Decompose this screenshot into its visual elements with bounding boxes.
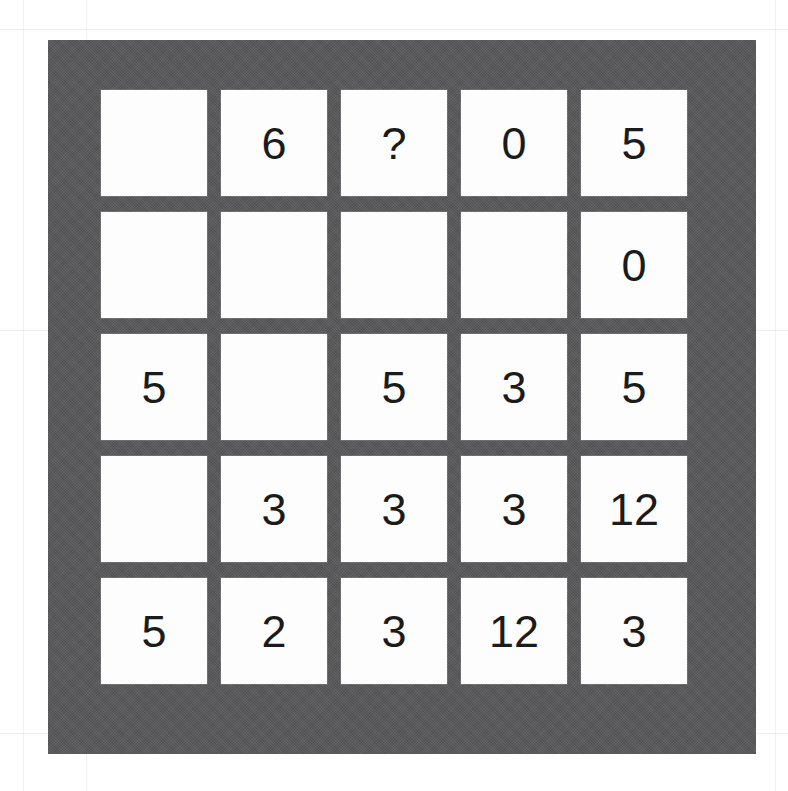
grid-cell-value: 3 — [381, 609, 406, 654]
grid-cell-value: ? — [381, 121, 406, 166]
grid-cell-r2c5[interactable]: 0 — [581, 212, 687, 318]
grid-cell-value: 3 — [501, 487, 526, 532]
grid-cell-r5c3[interactable]: 3 — [341, 578, 447, 684]
grid-cell-value: 5 — [141, 365, 166, 410]
grid-cell-r5c2[interactable]: 2 — [221, 578, 327, 684]
grid-cell-r4c3[interactable]: 3 — [341, 456, 447, 562]
paper-grid-line-vertical — [775, 0, 776, 791]
grid-cell-value: 3 — [381, 487, 406, 532]
grid-cell-value: 5 — [141, 609, 166, 654]
grid-cell-r2c4[interactable] — [461, 212, 567, 318]
grid-cell-value: 3 — [621, 609, 646, 654]
paper-grid-line-vertical — [23, 0, 24, 791]
number-grid-board: 6 ? 0 5 0 5 5 3 5 3 3 3 12 5 2 3 12 3 — [48, 40, 756, 754]
grid-cell-r3c2[interactable] — [221, 334, 327, 440]
paper-grid-line-horizontal — [0, 29, 788, 30]
grid-cell-r3c5[interactable]: 5 — [581, 334, 687, 440]
grid-cell-r4c5[interactable]: 12 — [581, 456, 687, 562]
grid-cell-r5c1[interactable]: 5 — [101, 578, 207, 684]
grid-cell-value: 0 — [621, 243, 646, 288]
grid-cell-r3c3[interactable]: 5 — [341, 334, 447, 440]
grid-cell-value: 6 — [261, 121, 286, 166]
grid-cell-value: 12 — [609, 487, 659, 532]
grid-cell-r2c3[interactable] — [341, 212, 447, 318]
number-grid-table: 6 ? 0 5 0 5 5 3 5 3 3 3 12 5 2 3 12 3 — [101, 90, 687, 684]
grid-cell-r4c4[interactable]: 3 — [461, 456, 567, 562]
grid-cell-r3c1[interactable]: 5 — [101, 334, 207, 440]
grid-cell-value: 3 — [261, 487, 286, 532]
grid-cell-r3c4[interactable]: 3 — [461, 334, 567, 440]
grid-cell-value: 5 — [621, 365, 646, 410]
grid-cell-r4c2[interactable]: 3 — [221, 456, 327, 562]
grid-cell-value: 0 — [501, 121, 526, 166]
grid-cell-r1c5[interactable]: 5 — [581, 90, 687, 196]
grid-cell-value: 5 — [381, 365, 406, 410]
grid-cell-r1c4[interactable]: 0 — [461, 90, 567, 196]
grid-cell-r1c2[interactable]: 6 — [221, 90, 327, 196]
grid-cell-r5c4[interactable]: 12 — [461, 578, 567, 684]
grid-cell-value: 2 — [261, 609, 286, 654]
grid-cell-r1c1[interactable] — [101, 90, 207, 196]
grid-cell-r4c1[interactable] — [101, 456, 207, 562]
grid-cell-value: 12 — [489, 609, 539, 654]
grid-cell-value: 5 — [621, 121, 646, 166]
grid-cell-r2c1[interactable] — [101, 212, 207, 318]
grid-cell-r2c2[interactable] — [221, 212, 327, 318]
grid-cell-r1c3[interactable]: ? — [341, 90, 447, 196]
grid-cell-value: 3 — [501, 365, 526, 410]
grid-cell-r5c5[interactable]: 3 — [581, 578, 687, 684]
